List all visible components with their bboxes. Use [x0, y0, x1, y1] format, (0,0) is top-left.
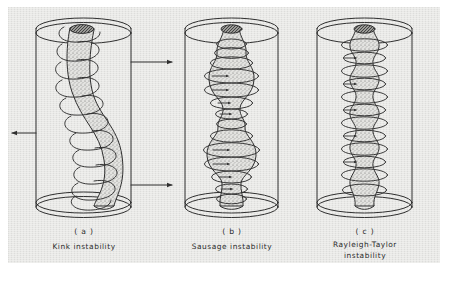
- panel-b-column-foot: [220, 206, 243, 209]
- panel-a-kink-instability: [12, 18, 172, 218]
- panel-b-column-mouth: [221, 25, 242, 33]
- panel-c-index-label: ( c ): [325, 227, 405, 236]
- panel-b-caption: Sausage instability: [172, 242, 292, 253]
- panel-c-column-foot: [355, 206, 374, 209]
- figure-plate: ( a ) Kink instability ( b ) Sausage ins…: [0, 0, 450, 283]
- panel-c-caption: Rayleigh-Taylor instability: [305, 240, 425, 261]
- panel-a-caption: Kink instability: [24, 242, 144, 253]
- panel-b-index-label: ( b ): [192, 227, 272, 236]
- panel-b-sausage-instability: [185, 18, 278, 218]
- panel-c-rayleigh-taylor-instability: [317, 18, 412, 217]
- panel-a-index-label: ( a ): [44, 227, 124, 236]
- panel-b-plasma-column: [207, 28, 256, 206]
- panel-a-column-mouth: [70, 25, 94, 34]
- panel-c-column-mouth: [354, 25, 375, 33]
